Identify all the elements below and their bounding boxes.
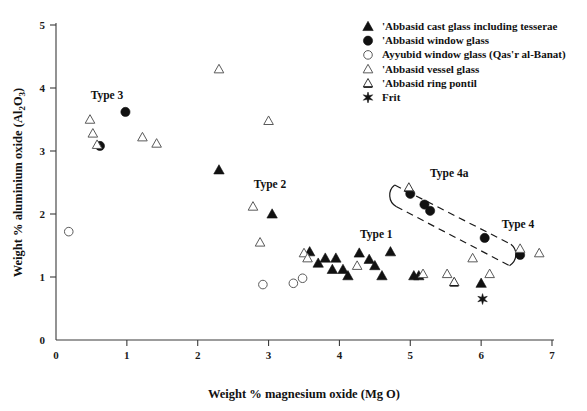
series-3-point-3 xyxy=(138,132,148,141)
series-0-point-1 xyxy=(267,209,277,218)
series-3-point-15 xyxy=(485,269,495,278)
series-2-point-3 xyxy=(298,274,307,283)
legend-marker-4-point-0 xyxy=(363,79,373,88)
plot-area: 01234567012345Weight % magnesium oxide (… xyxy=(0,0,587,411)
series-0-point-13 xyxy=(385,247,395,256)
y-tick-label-2: 2 xyxy=(40,208,46,220)
series-0-point-9 xyxy=(354,248,364,257)
legend-label-1: 'Abbasid window glass xyxy=(382,34,490,46)
series-4-point-1 xyxy=(449,277,459,286)
series-1-point-4 xyxy=(426,206,435,215)
x-tick-label-2: 2 xyxy=(195,349,201,361)
legend-label-4: 'Abbasid ring pontil xyxy=(382,77,477,89)
series-3-point-13 xyxy=(442,269,452,278)
x-tick-label-7: 7 xyxy=(549,349,555,361)
series-0-point-5 xyxy=(327,264,337,273)
series-3-point-14 xyxy=(468,253,478,262)
series-3-point-4 xyxy=(152,139,162,148)
legend-marker-2-point-0 xyxy=(364,51,373,60)
series-3-point-17 xyxy=(534,248,544,257)
y-tick-label-0: 0 xyxy=(40,334,46,346)
y-axis-title: Weight % aluminium oxide (Al2O3) xyxy=(11,88,27,278)
series-3-point-6 xyxy=(248,202,258,211)
series-2-point-0 xyxy=(64,227,73,236)
y-tick-label-3: 3 xyxy=(40,145,46,157)
legend-label-0: 'Abbasid cast glass including tesserae xyxy=(382,20,558,32)
series-0-point-16 xyxy=(476,278,486,287)
x-tick-label-4: 4 xyxy=(337,349,343,361)
legend-marker-3-point-0 xyxy=(363,64,373,73)
x-tick-label-6: 6 xyxy=(478,349,484,361)
series-2-point-2 xyxy=(289,279,298,288)
cluster-label-1: Type 2 xyxy=(254,178,287,191)
series-0-point-6 xyxy=(331,253,341,262)
x-tick-label-3: 3 xyxy=(266,349,272,361)
x-tick-label-0: 0 xyxy=(53,349,59,361)
cluster-label-2: Type 1 xyxy=(360,228,393,241)
scatter-chart-figure: 01234567012345Weight % magnesium oxide (… xyxy=(0,0,587,411)
type4-enclosure-cap xyxy=(509,244,515,265)
series-1-point-1 xyxy=(121,107,130,116)
series-3-point-1 xyxy=(88,129,98,138)
series-3-point-5 xyxy=(214,64,224,73)
series-0-point-4 xyxy=(320,253,330,262)
series-1-point-5 xyxy=(480,233,489,242)
legend-marker-0-point-0 xyxy=(363,21,373,30)
series-0-point-10 xyxy=(364,254,374,263)
y-tick-label-1: 1 xyxy=(40,271,46,283)
legend-label-3: 'Abbasid vessel glass xyxy=(382,63,480,75)
series-4-point-0 xyxy=(404,183,414,192)
series-3-point-7 xyxy=(264,116,274,125)
series-3-point-11 xyxy=(352,261,362,270)
legend-marker-5-point-0 xyxy=(363,92,372,103)
x-axis-title: Weight % magnesium oxide (Mg O) xyxy=(208,387,400,401)
series-5-point-0 xyxy=(478,294,487,305)
x-tick-label-5: 5 xyxy=(408,349,414,361)
cluster-label-3: Type 4a xyxy=(430,167,469,180)
cluster-label-4: Type 4 xyxy=(502,218,535,231)
series-0-point-0 xyxy=(214,165,224,174)
series-0-point-12 xyxy=(377,271,387,280)
y-tick-label-4: 4 xyxy=(40,82,46,94)
type4a-enclosure-cap xyxy=(390,185,396,206)
series-0-point-7 xyxy=(338,264,348,273)
y-tick-label-5: 5 xyxy=(40,19,46,31)
x-tick-label-1: 1 xyxy=(124,349,130,361)
series-3-point-16 xyxy=(515,244,525,253)
legend-label-2: Ayyubid window glass (Qas'r al-Banat) xyxy=(382,48,566,61)
series-3-point-8 xyxy=(255,238,265,247)
series-2-point-1 xyxy=(259,280,268,289)
legend-marker-1-point-0 xyxy=(363,36,372,45)
legend-label-5: Frit xyxy=(382,91,401,103)
cluster-label-0: Type 3 xyxy=(91,89,124,102)
series-3-point-0 xyxy=(85,115,95,124)
